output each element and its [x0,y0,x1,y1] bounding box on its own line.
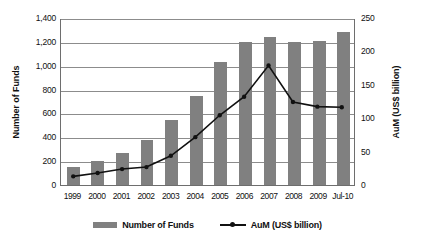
legend-label-aum: AuM (US$ billion) [251,220,322,230]
line-marker-swatch-icon [220,221,246,229]
chart-container: Number of Funds AuM (US$ billion) 020040… [0,0,422,243]
data-point-marker [218,113,222,117]
y-axis-right-tick-label: 0 [361,180,395,190]
legend-item-aum: AuM (US$ billion) [220,220,322,230]
y-axis-left-tick-label: 600 [22,108,56,118]
y-axis-right-tick-label: 100 [361,113,395,123]
y-axis-right-tick-label: 150 [361,80,395,90]
data-point-marker [71,174,75,178]
aum-polyline [73,65,342,176]
data-point-marker [315,104,319,108]
y-axis-left-tick-label: 200 [22,156,56,166]
bar-swatch-icon [93,222,117,228]
data-point-marker [266,63,270,67]
data-point-marker [291,100,295,104]
data-point-marker [340,105,344,109]
y-axis-left-tick-label: 0 [22,180,56,190]
y-axis-right-tick-label: 200 [361,46,395,56]
data-point-marker [193,135,197,139]
line-series-aum [61,19,354,185]
legend-item-number-of-funds: Number of Funds [93,220,194,230]
data-point-marker [95,171,99,175]
y-axis-left-title: Number of Funds [11,42,21,162]
y-axis-left-tick-label: 800 [22,85,56,95]
y-axis-left-tick-label: 1,200 [22,37,56,47]
data-point-marker [144,165,148,169]
aum-markers [71,63,344,178]
data-point-marker [120,167,124,171]
y-axis-left-tick-label: 1,000 [22,61,56,71]
x-axis-tick-label: Jul-10 [325,191,361,201]
y-axis-right-tick-label: 250 [361,13,395,23]
data-point-marker [169,154,173,158]
data-point-marker [242,95,246,99]
y-axis-right-tick-label: 50 [361,147,395,157]
y-axis-left-tick-label: 400 [22,132,56,142]
y-axis-left-tick-label: 1,400 [22,13,56,23]
plot-area [60,19,355,186]
chart-legend: Number of Funds AuM (US$ billion) [60,216,355,234]
legend-label-number-of-funds: Number of Funds [122,220,194,230]
